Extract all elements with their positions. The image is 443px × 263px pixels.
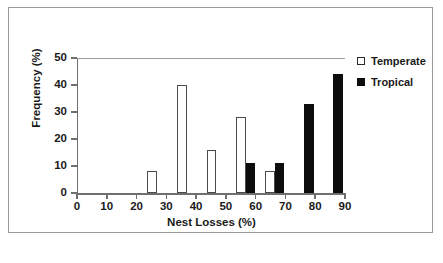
y-axis-tick-label: 30: [27, 106, 67, 118]
legend-swatch-icon: [357, 57, 365, 65]
y-axis-tick-label: 0: [27, 187, 67, 199]
bar-temperate: [207, 150, 217, 193]
x-axis-tick-label: 20: [122, 201, 152, 213]
x-axis-tick-label: 40: [181, 201, 211, 213]
x-axis-tick-label: 60: [241, 201, 271, 213]
x-axis-tick-label: 80: [300, 201, 330, 213]
bar-temperate: [236, 117, 246, 193]
y-axis-tick-label: 20: [27, 133, 67, 145]
x-axis-tick-label: 50: [211, 201, 241, 213]
chart-legend: TemperateTropical: [357, 55, 426, 97]
legend-item-temperate[interactable]: Temperate: [357, 55, 426, 67]
bar-tropical: [275, 163, 285, 193]
x-axis-tick-label: 90: [330, 201, 360, 213]
y-axis-tick-label: 50: [27, 52, 67, 64]
bar-temperate: [177, 85, 187, 193]
legend-item-label: Tropical: [371, 77, 413, 88]
legend-item-label: Temperate: [371, 56, 426, 67]
bar-temperate: [265, 171, 275, 193]
y-axis-tick-label: 10: [27, 160, 67, 172]
x-axis-tick-label: 30: [151, 201, 181, 213]
bar-group: [78, 59, 345, 193]
x-axis-line: [77, 193, 346, 195]
plot-area: [77, 58, 345, 193]
x-axis-tick-label: 70: [270, 201, 300, 213]
y-axis-tick-label: 40: [27, 79, 67, 91]
figure: Frequency (%) Nest Losses (%) 0102030405…: [0, 0, 443, 263]
x-axis-tick-label: 0: [62, 201, 92, 213]
bar-temperate: [147, 171, 157, 193]
bar-tropical: [333, 74, 343, 193]
legend-swatch-icon: [357, 78, 365, 86]
x-axis-label: Nest Losses (%): [77, 216, 346, 228]
figure-frame: Frequency (%) Nest Losses (%) 0102030405…: [8, 7, 433, 233]
legend-item-tropical[interactable]: Tropical: [357, 76, 426, 88]
bar-tropical: [246, 163, 256, 193]
x-axis-tick-label: 10: [92, 201, 122, 213]
bar-tropical: [304, 104, 314, 193]
